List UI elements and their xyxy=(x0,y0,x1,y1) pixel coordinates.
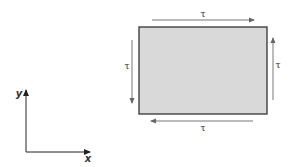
top-shear-arrow: τ xyxy=(152,9,254,20)
tau-label-bottom: τ xyxy=(201,123,206,133)
tau-label-right: τ xyxy=(276,60,281,70)
coordinate-axes: y x xyxy=(16,88,92,164)
x-axis-label: x xyxy=(84,153,92,164)
left-shear-arrow: τ xyxy=(125,40,132,103)
right-shear-arrow: τ xyxy=(273,38,281,100)
shear-diagram: τ τ τ τ y x xyxy=(0,0,294,167)
tau-label-left: τ xyxy=(125,61,130,71)
bottom-shear-arrow: τ xyxy=(151,121,253,133)
tau-label-top: τ xyxy=(201,9,206,19)
stress-element xyxy=(139,27,267,114)
y-axis-label: y xyxy=(16,88,23,99)
